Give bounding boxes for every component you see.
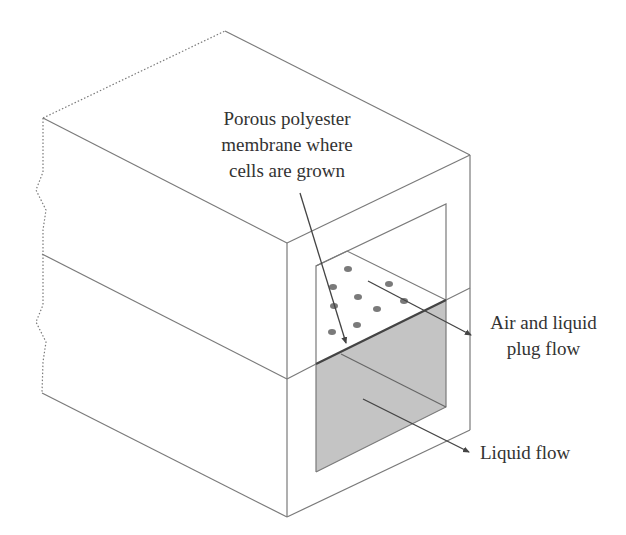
liquid-flow-label: Liquid flow: [480, 440, 570, 466]
air-liquid-label-line-2: plug flow: [481, 336, 606, 362]
pore-dot: [373, 306, 381, 312]
left-mid-seam: [42, 254, 287, 379]
pore-dot: [329, 284, 337, 290]
lower-channel-fill: [316, 300, 446, 472]
pore-dot: [344, 266, 352, 272]
membrane-arrow: [300, 193, 346, 343]
channel-window: [316, 204, 446, 472]
membrane-rear-outline: [316, 251, 446, 300]
membrane-label-line-3: cells are grown: [192, 158, 382, 184]
air-liquid-label-line-1: Air and liquid: [481, 310, 606, 336]
membrane-label-line-2: membrane where: [192, 132, 382, 158]
pore-dot: [328, 329, 336, 335]
front-mid-seam-right: [446, 288, 470, 300]
top-back-dotted-edge: [43, 31, 225, 118]
pore-dot: [353, 322, 361, 328]
outer-block: [36, 31, 470, 517]
membrane-label-line-1: Porous polyester: [192, 106, 382, 132]
pore-dot: [385, 281, 393, 287]
bottom-left-edge: [42, 393, 287, 517]
front-mid-seam-left: [287, 364, 316, 379]
air-liquid-label: Air and liquid plug flow: [481, 310, 606, 362]
bottom-front-edge: [287, 430, 470, 517]
membrane-label: Porous polyester membrane where cells ar…: [192, 106, 382, 184]
pore-dot: [354, 294, 362, 300]
